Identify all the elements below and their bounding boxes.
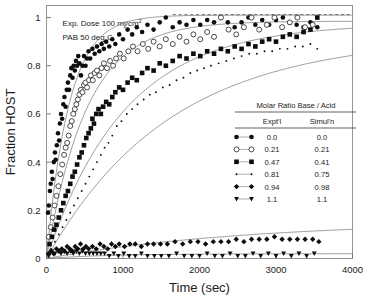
data-point (271, 50, 273, 52)
data-point (172, 239, 177, 244)
x-tick-label: 4000 (342, 264, 363, 275)
data-point (272, 15, 277, 20)
data-point (56, 215, 61, 220)
data-point (133, 241, 138, 246)
data-point (60, 162, 65, 167)
data-point (218, 239, 223, 244)
data-point (54, 193, 59, 198)
data-point (249, 237, 254, 242)
data-point (86, 131, 91, 136)
data-point (170, 25, 175, 30)
data-point (135, 49, 140, 54)
data-point (152, 254, 157, 259)
data-point (308, 27, 313, 32)
data-point (167, 254, 172, 259)
plot-annotations: Exp. Dose 100 mj/cm2PAB 50 deg C (63, 18, 142, 42)
data-point (134, 78, 139, 83)
legend-row[interactable]: 0.00.0 (234, 133, 327, 142)
plot-border (47, 6, 353, 259)
data-point (219, 47, 224, 52)
data-point (191, 51, 196, 56)
legend-row[interactable]: 1.11.1 (234, 195, 327, 204)
legend-row[interactable]: 0.210.21 (234, 145, 329, 154)
y-tick-label: 0 (35, 253, 40, 264)
data-point (53, 157, 58, 162)
data-point (212, 34, 217, 39)
data-point (234, 237, 239, 242)
data-point (226, 20, 231, 25)
data-point (97, 49, 102, 54)
chart-canvas: 0100020003000400000.20.40.60.81Time (sec… (0, 0, 368, 297)
data-point (303, 25, 308, 30)
data-point (104, 39, 109, 44)
data-point (170, 42, 175, 47)
data-point (107, 58, 112, 63)
data-point (302, 237, 307, 242)
data-point (75, 97, 80, 102)
data-point (107, 44, 112, 49)
data-point (169, 84, 171, 86)
data-point (111, 63, 116, 68)
data-point (70, 75, 75, 80)
data-point (108, 142, 110, 144)
data-point (226, 49, 231, 54)
data-point (182, 77, 184, 79)
data-point (316, 48, 318, 50)
data-point (125, 27, 130, 32)
data-point (92, 168, 94, 170)
data-point (87, 252, 92, 257)
data-point (95, 44, 100, 49)
data-point (253, 22, 258, 27)
data-point (225, 60, 227, 62)
data-point (279, 48, 281, 50)
data-point (170, 59, 175, 64)
data-point (63, 104, 68, 109)
data-point (57, 138, 62, 143)
legend-row[interactable]: 0.470.41 (234, 158, 329, 167)
data-point (157, 61, 162, 66)
x-tick-label: 1000 (112, 264, 133, 275)
data-point (155, 91, 157, 93)
data-point (289, 254, 294, 259)
legend-marker-small-dot (251, 173, 253, 175)
data-point (239, 47, 244, 52)
data-point (287, 237, 292, 242)
data-point (189, 254, 194, 259)
y-tick-label: 1 (35, 12, 40, 23)
data-point (137, 103, 139, 105)
data-point (203, 241, 208, 246)
data-point (99, 66, 104, 71)
legend-row[interactable]: 0.940.98 (234, 183, 330, 192)
legend-row[interactable]: 0.810.75 (236, 170, 330, 179)
data-point (77, 155, 82, 160)
data-point (249, 15, 254, 20)
y-tick-label: 0.2 (27, 205, 40, 216)
data-point (287, 20, 292, 25)
data-point (67, 88, 72, 93)
data-point (86, 49, 91, 54)
data-point (180, 241, 185, 246)
data-point (233, 58, 235, 60)
data-point (48, 189, 53, 194)
data-point (88, 176, 90, 178)
data-point (157, 20, 162, 25)
data-point (304, 254, 309, 259)
legend-marker-filled-diamond (249, 184, 254, 189)
data-point (50, 235, 55, 240)
data-point (164, 15, 169, 20)
data-point (58, 172, 63, 177)
data-point (241, 239, 246, 244)
data-point (50, 177, 55, 182)
legend-value-exptl: 0.94 (265, 183, 280, 192)
data-point (235, 254, 240, 259)
data-point (111, 135, 113, 137)
data-point (90, 116, 95, 121)
data-point (101, 61, 106, 66)
legend-marker-filled-diamond (234, 184, 239, 189)
legend-column-exptl: Expt'l (263, 117, 282, 126)
figure-container: 0100020003000400000.20.40.60.81Time (sec… (0, 0, 368, 297)
data-point (50, 169, 55, 174)
legend-value-simuln: 0.21 (315, 145, 330, 154)
data-point (145, 254, 150, 259)
data-point (280, 25, 285, 30)
